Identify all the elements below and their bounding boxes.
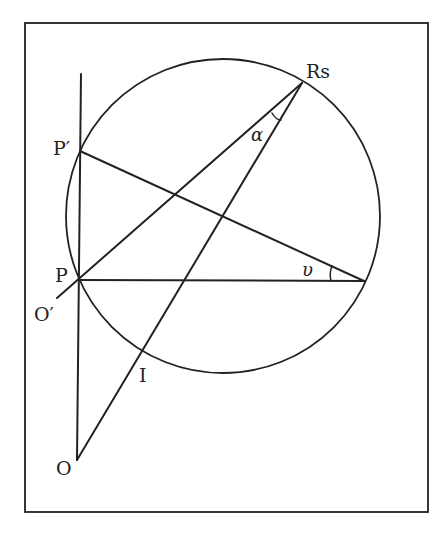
vertical-axis-line bbox=[77, 74, 81, 460]
angle-nu-arc bbox=[330, 266, 332, 281]
label-alpha: α bbox=[251, 124, 263, 145]
line-o-rs bbox=[77, 83, 302, 460]
label-nu: υ bbox=[302, 259, 313, 280]
line-p-v bbox=[78, 280, 364, 281]
label-p-prime: P′ bbox=[53, 137, 70, 159]
diagram-canvas: Rs P′ P O′ I O α υ bbox=[0, 0, 448, 534]
line-o-prime-rs bbox=[57, 83, 302, 298]
label-i: I bbox=[139, 364, 147, 386]
diagram-frame bbox=[25, 23, 428, 512]
label-rs: Rs bbox=[306, 60, 330, 82]
label-p: P bbox=[55, 264, 68, 286]
label-o: O bbox=[56, 457, 72, 479]
label-o-prime: O′ bbox=[34, 303, 54, 325]
